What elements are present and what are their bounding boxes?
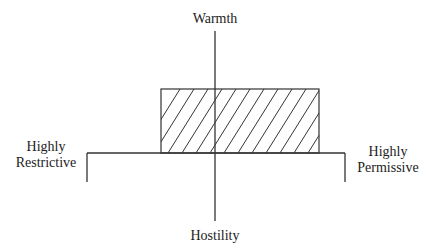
right-label-line2: Permissive bbox=[348, 160, 428, 176]
warmth-label: Warmth bbox=[185, 11, 245, 27]
highly-restrictive-label: Highly Restrictive bbox=[10, 139, 82, 171]
left-label-line2: Restrictive bbox=[10, 155, 82, 171]
hatched-region bbox=[140, 89, 348, 153]
hostility-label: Hostility bbox=[180, 228, 250, 244]
right-label-line1: Highly bbox=[348, 144, 428, 160]
highly-permissive-label: Highly Permissive bbox=[348, 144, 428, 176]
parenting-style-diagram bbox=[0, 0, 431, 250]
left-label-line1: Highly bbox=[10, 139, 82, 155]
